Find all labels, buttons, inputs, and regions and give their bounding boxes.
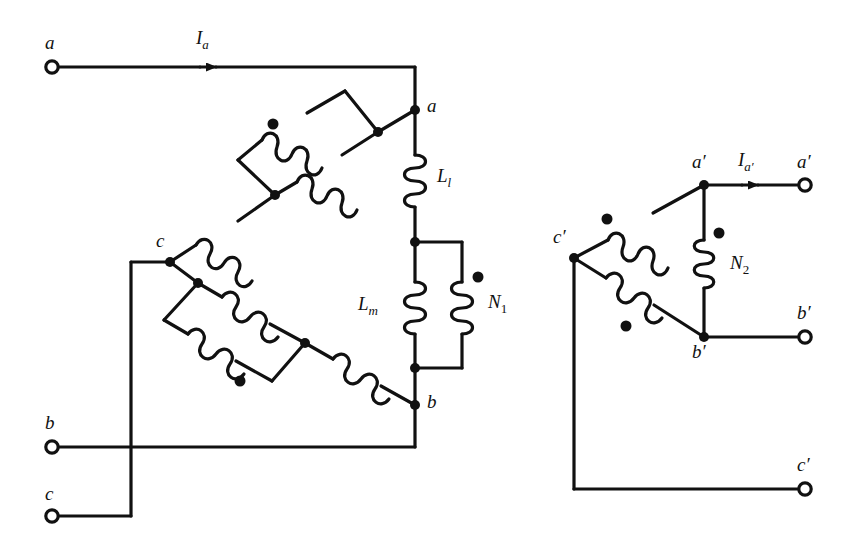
polarity-dot-cp-bp — [621, 321, 632, 332]
primary-winding-branch — [415, 242, 473, 368]
junction-node-c-prime — [569, 253, 579, 263]
leakage-subscript: l — [448, 175, 452, 190]
polarity-dot-cp-ap — [602, 214, 613, 225]
current-ia-prime-subscript: a′ — [744, 159, 753, 174]
junction-cb-left — [193, 278, 203, 288]
terminal-b-label: b — [45, 413, 55, 432]
figure-canvas: a b c a b c Ia Ll Lm N1 a′ b′ c′ a′ b′ c… — [0, 0, 857, 549]
branch-ca-lower-coil — [297, 175, 357, 217]
terminal-a-prime-circle[interactable] — [799, 179, 811, 191]
junction-node-a-prime — [699, 180, 709, 190]
secondary-winding-branch — [694, 185, 714, 337]
branch-cp-bp — [574, 258, 704, 337]
n1-symbol: N — [488, 291, 501, 312]
current-ia-label: Ia — [196, 28, 209, 51]
node-b-prime-label: b′ — [692, 342, 706, 361]
terminal-c-prime-label: c′ — [797, 455, 810, 474]
leakage-inductor-label: Ll — [437, 166, 451, 189]
junction-node-a — [410, 105, 420, 115]
junction-ca-left — [270, 190, 280, 200]
terminal-a-label: a — [45, 33, 55, 52]
branch-ca-series-coil — [196, 239, 252, 286]
secondary-winding-coil — [694, 240, 714, 288]
circuit-schematic — [0, 0, 857, 549]
branch-cp-ap-coil — [608, 233, 668, 275]
polarity-dot-n1 — [473, 272, 484, 283]
terminal-c-label: c — [45, 484, 53, 503]
primary-winding-coil — [452, 282, 473, 334]
secondary-winding-label: N2 — [730, 253, 749, 276]
branch-cb-upper-coil — [222, 292, 278, 342]
node-a-label: a — [427, 96, 437, 115]
terminal-c-prime-circle[interactable] — [799, 483, 811, 495]
branch-cp-ap — [574, 185, 704, 275]
polarity-dot-cb — [235, 376, 246, 387]
primary-phase-a-trunk — [405, 110, 426, 447]
lead-terminal-a — [58, 67, 415, 110]
n1-subscript: 1 — [501, 301, 508, 316]
terminal-b-prime-label: b′ — [797, 303, 811, 322]
magnetizing-inductor-label: Lm — [358, 294, 378, 317]
branch-cb-series-coil — [333, 354, 389, 404]
branch-cp-bp-coil — [606, 273, 662, 323]
n2-symbol: N — [730, 252, 743, 273]
magnetizing-symbol: L — [358, 293, 369, 314]
branch-cb-lower-coil — [188, 329, 244, 379]
terminal-a-prime-label: a′ — [797, 152, 811, 171]
current-ia-subscript: a — [202, 37, 209, 52]
junction-ca-right — [373, 127, 383, 137]
terminal-b-circle[interactable] — [46, 441, 58, 453]
magnetizing-inductor-coil — [405, 282, 426, 334]
magnetizing-subscript: m — [369, 303, 378, 318]
n2-subscript: 2 — [743, 262, 750, 277]
junction-lm-n1-top — [410, 237, 420, 247]
terminal-c-circle[interactable] — [46, 510, 58, 522]
branch-ca-upper-coil — [262, 133, 322, 175]
junction-lm-n1-bottom — [410, 363, 420, 373]
polarity-dot-ca — [268, 119, 279, 130]
branch-ca — [170, 91, 415, 287]
junction-node-b — [410, 400, 420, 410]
lead-terminal-c — [58, 262, 170, 516]
leakage-inductor-coil — [405, 155, 426, 207]
node-b-label: b — [427, 392, 437, 411]
lead-terminal-c-prime — [574, 258, 799, 489]
node-a-prime-label: a′ — [692, 152, 706, 171]
node-c-prime-label: c′ — [553, 227, 566, 246]
node-c-label: c — [156, 231, 164, 250]
terminal-b-prime-circle[interactable] — [799, 331, 811, 343]
leakage-symbol: L — [437, 165, 448, 186]
polarity-dot-n2 — [714, 228, 725, 239]
junction-node-c — [165, 257, 175, 267]
terminal-a-circle[interactable] — [46, 61, 58, 73]
junction-cb-right — [300, 338, 310, 348]
current-ia-prime-label: Ia′ — [738, 150, 754, 173]
primary-winding-label: N1 — [488, 292, 507, 315]
